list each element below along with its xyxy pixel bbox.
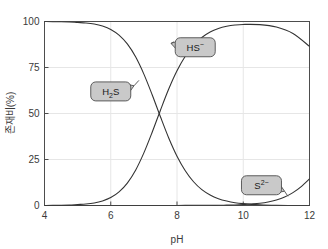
x-tick-label: 4 xyxy=(42,210,48,221)
chart-background xyxy=(0,0,328,249)
x-axis-label: pH xyxy=(171,234,184,245)
callout-hs: HS− xyxy=(171,38,215,57)
speciation-chart: 4681012 0255075100 H2SHS−S2− pH 존재비(%) xyxy=(0,0,328,249)
figure-container: 4681012 0255075100 H2SHS−S2− pH 존재비(%) xyxy=(0,0,328,249)
x-tick-label: 8 xyxy=(174,210,180,221)
y-tick-label: 75 xyxy=(28,62,40,73)
y-tick-label: 25 xyxy=(28,154,40,165)
y-axis-label: 존재비(%) xyxy=(5,92,16,135)
y-tick-label: 100 xyxy=(23,16,40,27)
y-tick-label: 0 xyxy=(34,200,40,211)
x-tick-label: 10 xyxy=(238,210,250,221)
x-tick-label: 6 xyxy=(108,210,114,221)
x-tick-label: 12 xyxy=(304,210,316,221)
y-tick-label: 50 xyxy=(28,108,40,119)
